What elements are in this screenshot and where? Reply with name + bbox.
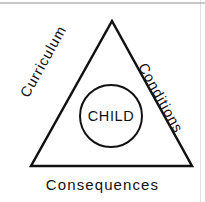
label-consequences: Consequences <box>0 176 205 193</box>
figure-container: Curriculum Conditions Consequences CHILD <box>0 0 205 202</box>
diagram-svg <box>0 0 205 202</box>
label-child: CHILD <box>81 108 141 124</box>
